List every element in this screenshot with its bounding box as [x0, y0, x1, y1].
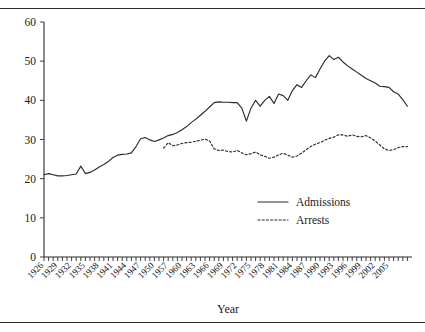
- y-tick-label: 0: [30, 251, 36, 263]
- y-tick-label: 40: [25, 94, 37, 106]
- chart-canvas: 0102030405060 19261929193219351938194119…: [0, 0, 425, 332]
- x-axis: [44, 257, 412, 261]
- x-axis-title: Year: [217, 302, 239, 316]
- y-tick-label: 60: [25, 16, 37, 28]
- x-tick-label: 2005: [370, 260, 390, 280]
- y-tick-label: 20: [25, 173, 37, 185]
- y-tick-label: 30: [25, 134, 37, 146]
- y-tick-labels: 0102030405060: [25, 16, 37, 263]
- series-line-admissions: [44, 56, 407, 176]
- y-tick-label: 50: [25, 55, 37, 67]
- data-series-group: [44, 56, 407, 176]
- y-tick-label: 10: [25, 212, 37, 224]
- series-line-arrests: [164, 135, 408, 159]
- legend-label-arrests: Arrests: [296, 214, 330, 226]
- line-chart-figure: 0102030405060 19261929193219351938194119…: [0, 0, 425, 332]
- x-axis-title-text: Year: [217, 302, 239, 316]
- chart-legend: AdmissionsArrests: [258, 196, 351, 226]
- y-axis: [40, 22, 44, 257]
- x-tick-labels: 1926192919321935193819411944194719501957…: [25, 260, 390, 280]
- legend-label-admissions: Admissions: [296, 196, 351, 208]
